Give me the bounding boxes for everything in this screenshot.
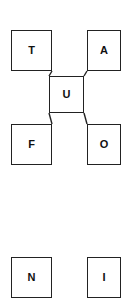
node-i-label: I: [102, 272, 105, 283]
edge-u-to-o: [84, 113, 87, 124]
node-f[interactable]: F: [11, 124, 52, 165]
node-o-label: O: [100, 139, 109, 150]
node-u[interactable]: U: [49, 76, 84, 113]
node-n[interactable]: N: [11, 257, 52, 298]
node-n-label: N: [28, 272, 36, 283]
node-a-label: A: [100, 45, 108, 56]
node-u-label: U: [63, 89, 71, 100]
edge-a-to-u: [84, 71, 87, 76]
node-t[interactable]: T: [11, 30, 52, 71]
edge-u-to-f: [49, 113, 52, 124]
node-o[interactable]: O: [87, 124, 121, 165]
node-a[interactable]: A: [87, 30, 121, 71]
node-f-label: F: [28, 139, 35, 150]
node-i[interactable]: I: [87, 257, 121, 298]
node-t-label: T: [28, 45, 35, 56]
